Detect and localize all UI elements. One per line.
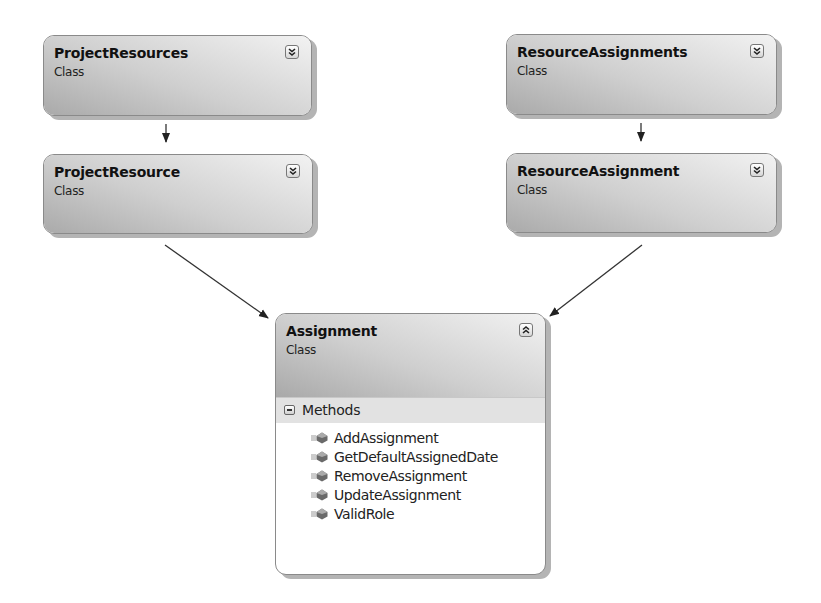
method-item[interactable]: UpdateAssignment bbox=[276, 486, 545, 505]
expand-chevrons-icon[interactable] bbox=[750, 44, 764, 58]
methods-section-header[interactable]: Methods bbox=[276, 398, 545, 423]
class-stereotype: Class bbox=[517, 183, 547, 197]
connector-resourceassignment-assignment[interactable] bbox=[550, 245, 642, 316]
class-header: ResourceAssignments Class bbox=[507, 35, 776, 115]
method-item[interactable]: GetDefaultAssignedDate bbox=[276, 448, 545, 467]
collapse-chevrons-icon[interactable] bbox=[519, 323, 533, 337]
expand-chevrons-icon[interactable] bbox=[285, 45, 299, 59]
class-shape-resourceassignment[interactable]: ResourceAssignment Class bbox=[506, 153, 777, 233]
class-header: ProjectResources Class bbox=[44, 36, 311, 116]
class-stereotype: Class bbox=[54, 65, 84, 79]
method-name: GetDefaultAssignedDate bbox=[334, 449, 498, 465]
class-name: ProjectResources bbox=[54, 45, 188, 61]
class-shape-resourceassignments[interactable]: ResourceAssignments Class bbox=[506, 34, 777, 115]
class-name: Assignment bbox=[286, 323, 377, 339]
expand-chevrons-icon[interactable] bbox=[750, 163, 764, 177]
method-name: UpdateAssignment bbox=[334, 487, 461, 503]
class-name: ResourceAssignment bbox=[517, 163, 679, 179]
class-stereotype: Class bbox=[286, 343, 316, 357]
method-name: ValidRole bbox=[334, 506, 394, 522]
collapse-minus-icon[interactable] bbox=[284, 405, 295, 415]
connector-projectresource-assignment[interactable] bbox=[165, 245, 268, 318]
method-item[interactable]: ValidRole bbox=[276, 505, 545, 524]
class-stereotype: Class bbox=[517, 64, 547, 78]
method-name: AddAssignment bbox=[334, 430, 438, 446]
method-item[interactable]: AddAssignment bbox=[276, 429, 545, 448]
method-icon bbox=[311, 508, 329, 520]
class-name: ResourceAssignments bbox=[517, 44, 687, 60]
class-shape-projectresources[interactable]: ProjectResources Class bbox=[43, 35, 312, 116]
class-shape-projectresource[interactable]: ProjectResource Class bbox=[43, 154, 313, 234]
method-icon bbox=[311, 451, 329, 463]
expand-chevrons-icon[interactable] bbox=[286, 164, 300, 178]
class-header: ProjectResource Class bbox=[44, 155, 312, 234]
methods-list: AddAssignment GetDefaultAssignedDate Rem… bbox=[276, 423, 545, 532]
method-name: RemoveAssignment bbox=[334, 468, 467, 484]
class-shape-assignment[interactable]: Assignment Class Methods AddAssignment G… bbox=[275, 313, 546, 575]
class-header: ResourceAssignment Class bbox=[507, 154, 776, 233]
class-header: Assignment Class bbox=[276, 314, 545, 398]
method-icon bbox=[311, 470, 329, 482]
class-name: ProjectResource bbox=[54, 164, 180, 180]
class-stereotype: Class bbox=[54, 184, 84, 198]
method-icon bbox=[311, 489, 329, 501]
method-icon bbox=[311, 432, 329, 444]
section-label: Methods bbox=[302, 402, 360, 418]
method-item[interactable]: RemoveAssignment bbox=[276, 467, 545, 486]
